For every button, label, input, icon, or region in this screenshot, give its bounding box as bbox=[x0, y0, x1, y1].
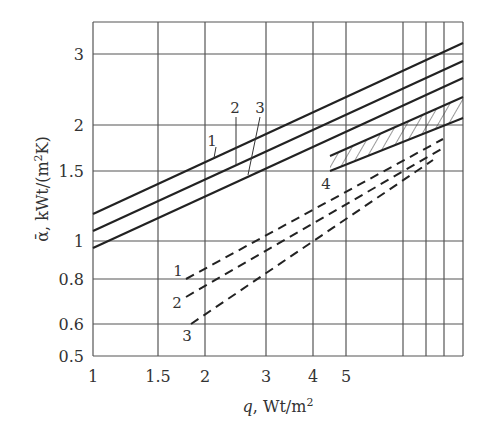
dashed-lines bbox=[186, 139, 445, 324]
series-solid-2 bbox=[93, 61, 463, 231]
y-tick: 3 bbox=[74, 45, 84, 64]
label-dashed-3: 3 bbox=[182, 327, 192, 345]
x-tick: 1 bbox=[88, 367, 98, 386]
y-tick: 1.5 bbox=[59, 162, 84, 181]
y-tick: 0.6 bbox=[59, 315, 84, 334]
chart: 3 2 1.5 1 0.8 0.6 0.5 1 1.5 2 3 4 5 q, W… bbox=[0, 0, 483, 438]
y-tick: 0.5 bbox=[59, 347, 84, 366]
leader-lines bbox=[214, 117, 260, 175]
label-dashed-1: 1 bbox=[173, 262, 183, 280]
y-axis-ticks: 3 2 1.5 1 0.8 0.6 0.5 bbox=[59, 45, 84, 366]
x-tick: 3 bbox=[261, 367, 271, 386]
x-tick: 1.5 bbox=[145, 367, 170, 386]
label-solid-2: 2 bbox=[230, 99, 240, 117]
y-axis-title: ᾱ, kWt/(m2K) bbox=[32, 136, 52, 242]
series-solid-3 bbox=[93, 78, 463, 248]
label-band-4: 4 bbox=[321, 175, 331, 193]
label-solid-3: 3 bbox=[255, 99, 265, 117]
y-tick: 1 bbox=[74, 232, 84, 251]
y-tick: 0.8 bbox=[59, 270, 84, 289]
solid-lines bbox=[93, 43, 463, 248]
label-solid-1: 1 bbox=[207, 132, 217, 150]
x-tick: 5 bbox=[341, 367, 351, 386]
y-tick: 2 bbox=[74, 116, 84, 135]
series-dashed-3 bbox=[191, 160, 433, 324]
x-tick: 4 bbox=[308, 367, 318, 386]
series-dashed-1 bbox=[186, 139, 443, 279]
label-dashed-2: 2 bbox=[172, 294, 182, 312]
x-axis-ticks: 1 1.5 2 3 4 5 bbox=[88, 367, 351, 386]
x-tick: 2 bbox=[200, 367, 210, 386]
x-axis-title: q, Wt/m2 bbox=[243, 396, 314, 416]
series-labels: 1 2 3 4 1 2 3 bbox=[172, 99, 331, 345]
